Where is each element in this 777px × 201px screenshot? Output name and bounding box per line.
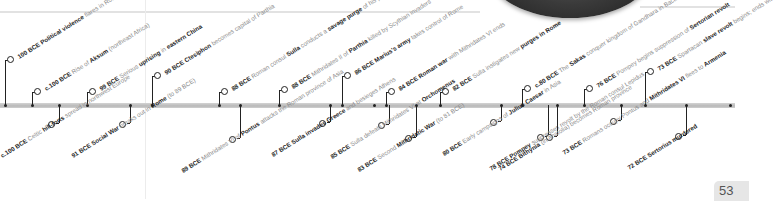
event-connector: [279, 91, 280, 105]
event-date: 83 BCE: [356, 155, 380, 173]
coin-image: [490, 0, 650, 18]
event-text: eastern China: [165, 23, 203, 51]
event-marker-icon: [388, 88, 395, 95]
timeline-bar: [0, 103, 735, 108]
event-date: 87 BCE: [270, 140, 294, 158]
event-date: c.100 BCE: [43, 69, 74, 92]
event-text: Pontus: [239, 120, 260, 137]
event-text: slave revolt: [701, 20, 734, 44]
event-date: c.100 BCE: [0, 136, 30, 159]
event-text: hill-forts: [41, 114, 66, 133]
event-text: (northeast Africa): [105, 21, 150, 53]
event-text: becomes capital of Parthia: [208, 2, 275, 47]
event-connector: [342, 77, 343, 105]
event-text: Mithridates VI: [648, 74, 686, 101]
event-date: 100 BCE: [16, 40, 42, 60]
timeline-dot: [373, 104, 376, 107]
event-text: Armenia: [702, 49, 727, 68]
event-date: 91 BCE: [70, 141, 94, 159]
event-marker-icon: [281, 86, 288, 93]
event-marker-icon: [221, 88, 228, 95]
event-label: 74 BCE Bithynia (in Anatolia) becomes Ro…: [497, 83, 633, 172]
event-text: savage purge: [326, 5, 364, 32]
event-text: Marius's army: [373, 36, 412, 64]
event-marker-icon: [647, 68, 654, 75]
event-date: 88 BCE: [230, 74, 254, 92]
event-text: with Mithridates VI ends: [445, 20, 506, 62]
event-text: begins; ends with defeat by Crassus in 7…: [730, 0, 777, 26]
event-text: Roman war: [417, 56, 449, 80]
event-date: 80 BCE: [441, 139, 465, 157]
event-date: 73 BCE: [656, 54, 680, 72]
event-label: 72 BCE Sertorius murdered: [626, 122, 698, 171]
event-date: 89 BCE: [180, 156, 204, 174]
timeline-dot: [729, 104, 732, 107]
event-label: c.100 BCE Celtic hill-forts spread in no…: [0, 73, 131, 159]
event-text: Sulla instigates new: [471, 44, 523, 80]
event-marker-icon: [586, 85, 593, 92]
event-text: Roman consul: [250, 52, 289, 80]
event-text: Mithridates VI of: [200, 131, 243, 162]
event-text: uprising: [137, 49, 161, 68]
event-text: killed by Scythian invaders: [365, 0, 432, 43]
event-date: 73 BCE: [561, 138, 585, 156]
event-text: Early campaigns of: [461, 110, 511, 145]
event-date: 84 BCE: [397, 74, 421, 92]
event-connector: [440, 93, 441, 105]
event-date: 90 BCE: [163, 58, 187, 76]
event-text: Social War: [90, 124, 120, 147]
event-connector: [584, 90, 585, 105]
event-text: conducts a: [297, 26, 329, 50]
event-text: Sertorius murdered: [646, 122, 698, 158]
event-text: Spartacan: [676, 38, 705, 60]
event-label: 83 BCE Second Mithridatic War (to 81 BCE…: [356, 101, 465, 173]
event-text: Political violence: [39, 13, 85, 46]
event-text: spread in northwest Europe: [62, 73, 131, 120]
event-text: Rise of: [70, 58, 92, 75]
event-marker-icon: [154, 72, 161, 79]
event-label: 87 BCE Sulla invades Greece and besieges…: [270, 75, 397, 158]
event-marker-icon: [524, 85, 531, 92]
event-text: flares in Rome: [81, 0, 120, 19]
event-text: purges in Rome: [519, 19, 562, 50]
event-marker-icon: [7, 56, 14, 63]
event-label: 76 BCE Pompey begins suppression of Sert…: [595, 1, 731, 89]
event-marker-icon: [34, 88, 41, 95]
event-connector: [219, 93, 220, 105]
event-date: 72 BCE: [626, 153, 650, 171]
event-connector: [386, 93, 387, 105]
event-text: Orchomenus: [420, 77, 456, 103]
event-text: Second: [376, 143, 399, 161]
event-text: Aksum: [88, 47, 109, 64]
event-text: Ctesiphon: [183, 42, 212, 64]
event-connector: [5, 61, 6, 105]
page-number: 53: [714, 181, 749, 201]
event-text: Sulla invades Greece: [290, 107, 347, 146]
event-connector: [32, 93, 33, 105]
event-text: (to 89 BCE): [164, 76, 197, 100]
event-date: 85 BCE: [329, 142, 353, 160]
event-date: 86 BCE: [353, 58, 377, 76]
